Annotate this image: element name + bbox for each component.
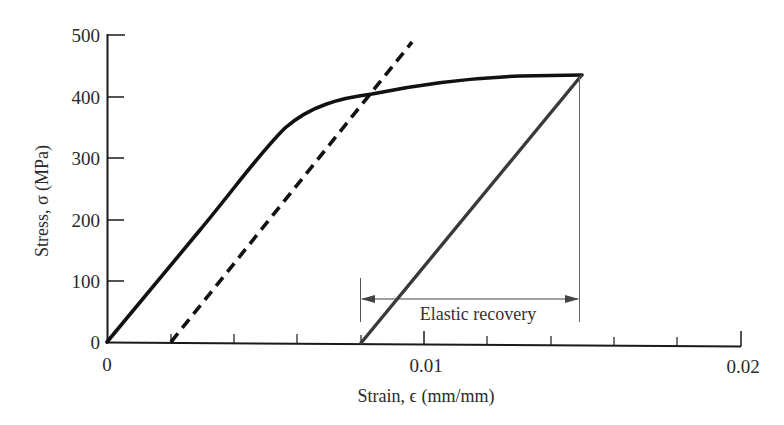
x-tick-labels: 0 0.01 0.02 xyxy=(102,354,759,377)
x-tick-0.02: 0.02 xyxy=(726,356,759,377)
y-tick-200: 200 xyxy=(72,210,101,231)
y-axis-label: Stress, σ (MPa) xyxy=(32,145,53,257)
y-tick-100: 100 xyxy=(72,271,101,292)
stress-strain-chart: 500 400 300 200 100 0 Stress, σ (MPa) 0 … xyxy=(0,0,784,425)
y-tick-400: 400 xyxy=(72,87,101,108)
offset-line xyxy=(171,42,412,342)
y-tick-300: 300 xyxy=(72,148,101,169)
y-tick-500: 500 xyxy=(72,25,101,46)
x-axis xyxy=(107,331,742,347)
stress-strain-curve xyxy=(107,75,582,342)
y-tick-0: 0 xyxy=(91,332,101,353)
elastic-recovery-annotation: Elastic recovery xyxy=(361,77,580,324)
x-tick-0.01: 0.01 xyxy=(409,355,442,376)
y-tick-labels: 500 400 300 200 100 0 xyxy=(72,25,101,353)
x-tick-0: 0 xyxy=(102,354,112,375)
x-axis-label: Strain, ϵ (mm/mm) xyxy=(358,386,495,407)
unloading-line xyxy=(361,76,581,343)
y-axis xyxy=(108,34,126,343)
elastic-recovery-label: Elastic recovery xyxy=(420,304,536,324)
